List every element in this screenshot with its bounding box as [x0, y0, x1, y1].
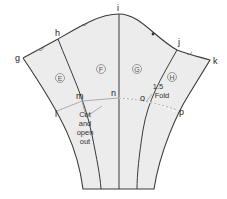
- svg-text:and: and: [79, 119, 92, 128]
- notch-dot: [152, 33, 155, 36]
- svg-text:F: F: [99, 66, 103, 73]
- point-h-label: h: [55, 28, 60, 38]
- point-p-label: p: [179, 107, 184, 117]
- svg-text:open: open: [77, 128, 94, 137]
- point-l-label: l: [55, 109, 57, 119]
- point-k-label: k: [213, 56, 218, 66]
- svg-text:out: out: [80, 137, 91, 146]
- point-g-label: g: [15, 53, 20, 63]
- point-m-label: m: [76, 91, 84, 101]
- svg-text:1.5: 1.5: [153, 82, 163, 91]
- sleeve-pattern-diagram: E F G H g h i j k l m n o p Cut and open…: [0, 0, 227, 199]
- svg-text:H: H: [169, 74, 174, 81]
- svg-text:Cut: Cut: [79, 110, 92, 119]
- point-i-label: i: [117, 3, 119, 13]
- svg-text:Fold: Fold: [155, 91, 170, 100]
- point-o-label: o: [140, 93, 145, 103]
- point-j-label: j: [177, 37, 180, 47]
- point-n-label: n: [111, 88, 116, 98]
- svg-text:G: G: [134, 66, 139, 73]
- svg-text:E: E: [58, 75, 63, 82]
